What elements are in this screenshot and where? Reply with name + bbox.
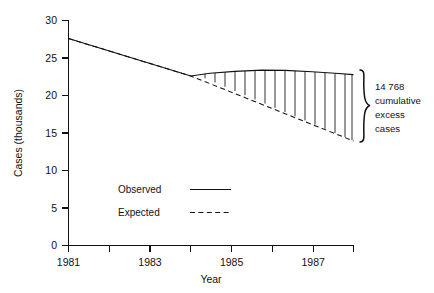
- annotation-line-3: excess: [375, 109, 405, 120]
- chart-legend: Observed Expected: [118, 184, 231, 218]
- line-chart-canvas: 30 25 20 15 10 5 0 Cases (thousands) 198…: [0, 0, 434, 293]
- chart-figure: 30 25 20 15 10 5 0 Cases (thousands) 198…: [0, 0, 434, 293]
- x-tick-label-1983: 1983: [138, 256, 162, 268]
- annotation-line-1: 14 768: [375, 81, 404, 92]
- x-tick-label-1987: 1987: [302, 256, 326, 268]
- y-tick-label-5: 5: [51, 202, 57, 214]
- y-tick-label-15: 15: [45, 127, 57, 139]
- y-tick-label-30: 30: [45, 14, 57, 26]
- x-axis: 1981 1983 1985 1987 Year: [57, 246, 354, 286]
- legend-label-observed: Observed: [118, 184, 161, 195]
- legend-label-expected: Expected: [118, 207, 160, 218]
- annotation-line-2: cumulative: [375, 95, 421, 106]
- y-tick-label-20: 20: [45, 89, 57, 101]
- x-axis-title: Year: [200, 273, 222, 285]
- y-tick-label-25: 25: [45, 52, 57, 64]
- y-tick-label-10: 10: [45, 164, 57, 176]
- y-tick-label-0: 0: [51, 239, 57, 251]
- x-tick-label-1985: 1985: [220, 256, 244, 268]
- y-axis-title: Cases (thousands): [12, 89, 24, 177]
- excess-region-hatching: [205, 70, 352, 140]
- series-line-observed: [69, 39, 354, 77]
- series-line-expected: [69, 39, 354, 142]
- annotation-line-4: cases: [375, 123, 400, 134]
- x-tick-label-1981: 1981: [57, 256, 81, 268]
- excess-cases-brace: [360, 70, 370, 142]
- legend-item-expected: Expected: [118, 207, 231, 218]
- y-axis: 30 25 20 15 10 5 0 Cases (thousands): [12, 14, 69, 251]
- excess-cases-annotation: 14 768 cumulative excess cases: [375, 81, 421, 134]
- legend-item-observed: Observed: [118, 184, 231, 195]
